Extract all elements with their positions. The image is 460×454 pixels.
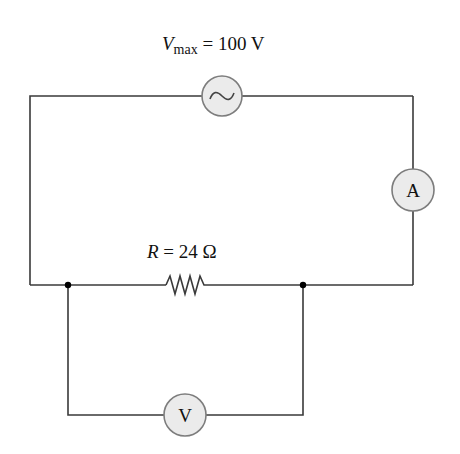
ammeter-letter: A [393,181,433,200]
junction-right [300,282,306,288]
wire-voltmeter-right [206,285,303,415]
resistor-var: R [147,241,159,262]
source-voltage-var: V [162,33,174,54]
resistor-value: = 24 Ω [159,241,217,262]
wire-voltmeter-left [68,285,164,415]
resistor-label: R = 24 Ω [147,242,217,261]
source-voltage-label: Vmax = 100 V [162,34,265,53]
source-voltage-sub: max [174,42,198,57]
resistor-icon [166,276,205,294]
source-voltage-value: = 100 V [198,33,265,54]
junction-left [65,282,71,288]
circuit-diagram [0,0,460,454]
ac-source [202,76,242,116]
voltmeter-letter: V [165,406,205,425]
